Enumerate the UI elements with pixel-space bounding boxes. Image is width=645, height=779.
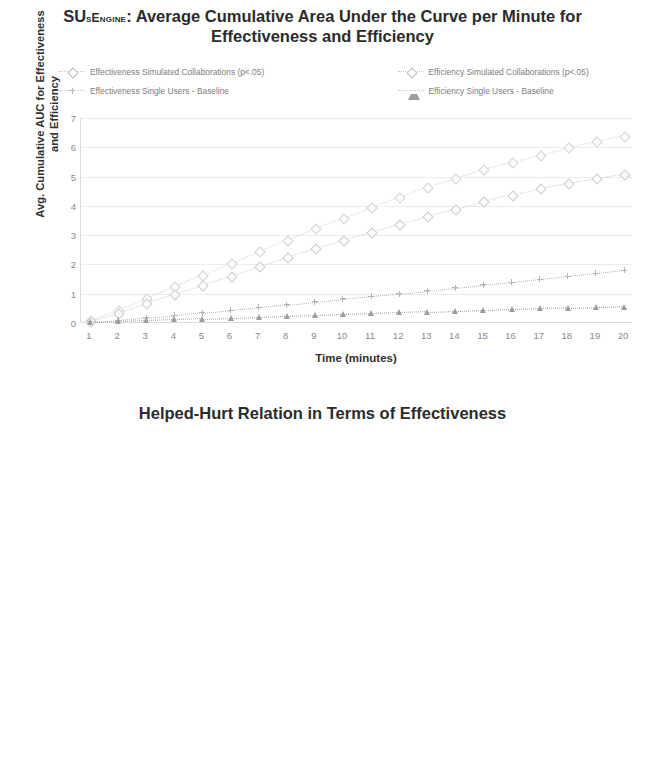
y-tick-label: 2 [71,259,76,270]
data-point [479,165,490,176]
series-line-segment [427,288,455,292]
diamond-open-icon [398,67,424,77]
chart1-x-axis-label: Time (minutes) [80,352,632,364]
data-point [254,261,265,272]
y-tick-label: 6 [71,142,76,153]
gridline [81,118,632,119]
x-tick-label: 2 [114,330,119,341]
data-point [312,312,318,318]
data-point [340,296,346,302]
series-line-segment [146,315,174,318]
data-point [228,307,234,313]
series-line-segment [483,309,511,311]
chart1-plot-area [80,118,632,323]
gridline [81,294,632,295]
data-point [284,313,290,319]
data-point [87,319,93,325]
data-point [170,289,181,300]
data-point [338,213,349,224]
legend-item-efficiency-simulated[interactable]: Efficiency Simulated Collaborations (p<.… [348,62,641,81]
data-point [284,302,290,308]
data-point [509,306,515,312]
diamond-open-icon [59,67,85,77]
auc-line-chart-figure: SUsEngine: Average Cumulative Area Under… [0,0,645,395]
legend-item-effectiveness-simulated[interactable]: Effectiveness Simulated Collaborations (… [55,62,348,81]
data-point [171,316,177,322]
legend-label: Effectiveness Simulated Collaborations (… [90,67,264,77]
series-line-segment [455,310,483,312]
plus-icon [59,86,85,96]
x-tick-label: 4 [171,330,176,341]
data-point [394,219,405,230]
series-line-segment [399,312,427,314]
series-line-segment [231,317,259,319]
series-line-segment [202,318,230,320]
series-line-segment [483,282,511,286]
chart1-y-axis-ticks: 01234567 [56,112,76,329]
data-point [591,173,602,184]
data-point [226,271,237,282]
legend-label: Efficiency Simulated Collaborations (p<.… [429,67,589,77]
gridline [81,206,632,207]
x-tick-label: 13 [421,330,432,341]
data-point [509,279,515,285]
legend-item-effectiveness-baseline[interactable]: Effectiveness Single Users - Baseline [55,81,348,100]
data-point [621,304,627,310]
data-point [537,305,543,311]
data-point [452,308,458,314]
series-line-segment [512,308,540,310]
x-tick-label: 12 [393,330,404,341]
data-point [424,309,430,315]
data-point [310,223,321,234]
data-point [424,288,430,294]
y-tick-label: 7 [71,113,76,124]
data-point [563,178,574,189]
data-point [619,169,630,180]
chart1-title-rest: : Average Cumulative Area Under the Curv… [126,7,582,45]
data-point [310,244,321,255]
series-line-segment [512,279,540,283]
data-point [199,316,205,322]
x-tick-label: 18 [561,330,572,341]
x-tick-label: 8 [283,330,288,341]
y-tick-label: 1 [71,288,76,299]
x-tick-label: 16 [505,330,516,341]
data-point [312,299,318,305]
x-tick-label: 7 [255,330,260,341]
series-line-segment [371,312,399,314]
data-point [143,317,149,323]
series-line-segment [596,270,624,274]
chart1-x-axis-ticks: 1234567891011121314151617181920 [80,330,632,346]
series-line-segment [146,319,174,321]
series-line-segment [202,310,230,314]
y-tick-label: 3 [71,230,76,241]
data-point [256,304,262,310]
series-line-segment [174,313,202,317]
series-line-segment [231,307,259,311]
x-tick-label: 9 [311,330,316,341]
x-tick-label: 11 [365,330,375,341]
data-point [507,157,518,168]
series-line-segment [568,307,596,309]
x-tick-label: 17 [533,330,544,341]
gridline [81,177,632,178]
data-point [565,305,571,311]
y-tick-label: 5 [71,171,76,182]
data-point [423,211,434,222]
data-point [480,307,486,313]
data-point [619,131,630,142]
x-tick-label: 3 [143,330,148,341]
x-tick-label: 10 [337,330,348,341]
series-line-segment [118,320,146,322]
legend-item-efficiency-baseline[interactable]: Efficiency Single Users - Baseline [348,81,641,100]
series-line-segment [259,305,287,309]
data-point [452,285,458,291]
data-point [282,235,293,246]
chart1-title-subscript: sEngine [86,11,126,25]
data-point [115,318,121,324]
data-point [537,276,543,282]
gridline [81,147,632,148]
data-point [565,273,571,279]
x-tick-label: 1 [86,330,91,341]
data-point [593,304,599,310]
